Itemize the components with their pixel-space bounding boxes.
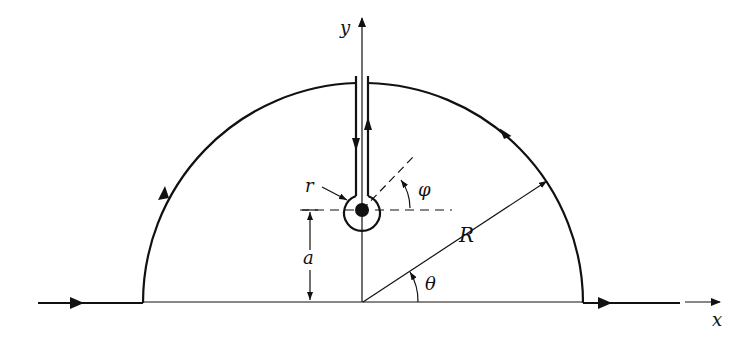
radius-line <box>363 181 547 302</box>
arrow-icon <box>598 297 612 309</box>
r-label: r <box>305 175 315 196</box>
dashed-phi-line <box>362 155 415 210</box>
phi-label: φ <box>418 179 431 200</box>
contour-path <box>38 76 680 309</box>
y-axis-label: y <box>339 17 351 38</box>
arrow-icon <box>352 138 360 151</box>
singular-point <box>355 203 369 217</box>
arrow-icon <box>70 297 84 309</box>
r-pointer <box>322 187 347 200</box>
contour-diagram: y x r φ a R θ <box>0 0 751 339</box>
arrow-icon <box>364 117 372 130</box>
theta-label: θ <box>425 273 436 294</box>
x-axis-label: x <box>712 309 722 330</box>
theta-angle-arc <box>410 272 418 302</box>
a-label: a <box>303 247 314 268</box>
R-label: R <box>458 223 474 247</box>
arrow-icon <box>158 186 169 200</box>
phi-angle-arc <box>401 180 410 208</box>
